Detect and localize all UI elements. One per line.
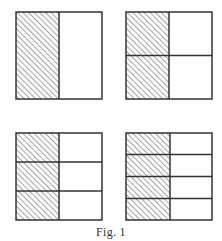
square-quarters [125,11,213,100]
square-eighths-graphic [125,132,213,221]
square-eighths [125,132,213,221]
figure-caption: Fig. 1 [0,225,222,240]
square-halves [15,11,103,100]
square-sixths-graphic [15,132,103,221]
shaded-region [16,12,59,99]
square-halves-graphic [15,11,103,100]
square-sixths [15,132,103,221]
square-quarters-graphic [125,11,213,100]
shaded-region [16,133,59,220]
